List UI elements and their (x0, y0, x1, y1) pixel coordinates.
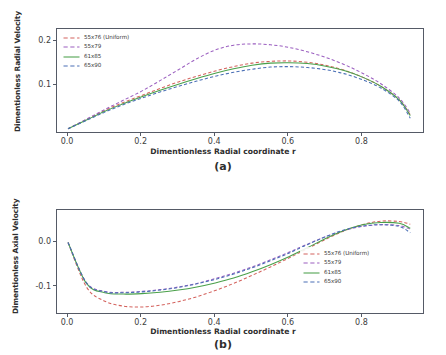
x-tick-label: 0.2 (134, 318, 147, 327)
legend-line-swatch-icon (303, 251, 320, 257)
legend-item[interactable]: 65x90 (63, 62, 129, 72)
figure-container: Dimentionless Radial Velocity 0.00.20.40… (0, 0, 446, 355)
chart-panel-a: Dimentionless Radial Velocity 0.00.20.40… (0, 0, 446, 178)
x-tickmark (140, 314, 141, 317)
legend-item[interactable]: 55x76 (Uniform) (303, 249, 369, 259)
y-tick-label: 0.2 (16, 36, 51, 45)
legend-line-swatch-icon (303, 270, 320, 276)
legend-item[interactable]: 55x76 (Uniform) (63, 33, 129, 43)
legend-line-swatch-icon (63, 35, 80, 41)
y-tick-label: 0.0 (16, 237, 51, 246)
legend-label: 55x79 (84, 44, 101, 50)
x-tick-label: 0.6 (281, 318, 294, 327)
legend-label: 65x90 (324, 279, 341, 285)
y-axis-label-b: Dimentionless Axial Velocity (11, 199, 20, 314)
x-tickmark (361, 133, 362, 136)
x-axis-label-b: Dimentionless Radial coordinate r (0, 327, 446, 336)
y-tickmark (53, 285, 56, 286)
legend-a[interactable]: 55x76 (Uniform)55x7961x8565x90 (60, 31, 133, 73)
legend-item[interactable]: 55x79 (63, 43, 129, 53)
legend-b[interactable]: 55x76 (Uniform)55x7961x8565x90 (300, 247, 373, 289)
legend-item[interactable]: 61x85 (63, 52, 129, 62)
panel-tag-a: (a) (0, 160, 446, 173)
legend-line-swatch-icon (63, 54, 80, 60)
y-tickmark (53, 241, 56, 242)
x-tick-label: 0.6 (281, 137, 294, 146)
legend-item[interactable]: 65x90 (303, 278, 369, 288)
legend-label: 65x90 (84, 63, 101, 69)
y-axis-label-a: Dimentionless Radial Velocity (13, 11, 22, 132)
chart-panel-b: Dimentionless Axial Velocity 0.00.20.40.… (0, 177, 446, 355)
y-tick-label: 0.1 (16, 80, 51, 89)
x-tick-label: 0.0 (61, 137, 74, 146)
x-tickmark (140, 133, 141, 136)
x-tickmark (361, 314, 362, 317)
x-tickmark (287, 314, 288, 317)
panel-tag-b: (b) (0, 338, 446, 351)
legend-item[interactable]: 61x85 (303, 268, 369, 278)
y-tick-label: -0.1 (16, 281, 51, 290)
x-tick-label: 0.4 (208, 137, 221, 146)
legend-line-swatch-icon (303, 260, 320, 266)
legend-label: 55x76 (Uniform) (84, 35, 129, 41)
legend-line-swatch-icon (303, 279, 320, 285)
x-tick-label: 0.8 (355, 137, 368, 146)
legend-label: 55x76 (Uniform) (324, 251, 369, 257)
legend-label: 61x85 (84, 54, 101, 60)
legend-label: 55x79 (324, 260, 341, 266)
x-tick-label: 0.2 (134, 137, 147, 146)
x-tick-label: 0.4 (208, 318, 221, 327)
x-tickmark (67, 314, 68, 317)
y-tickmark (53, 84, 56, 85)
x-tickmark (214, 133, 215, 136)
x-axis-label-a: Dimentionless Radial coordinate r (0, 147, 446, 156)
x-tickmark (67, 133, 68, 136)
y-tickmark (53, 40, 56, 41)
legend-line-swatch-icon (63, 63, 80, 69)
x-tick-label: 0.8 (355, 318, 368, 327)
legend-item[interactable]: 55x79 (303, 259, 369, 269)
x-tick-label: 0.0 (61, 318, 74, 327)
legend-line-swatch-icon (63, 44, 80, 50)
legend-label: 61x85 (324, 270, 341, 276)
x-tickmark (214, 314, 215, 317)
x-tickmark (287, 133, 288, 136)
